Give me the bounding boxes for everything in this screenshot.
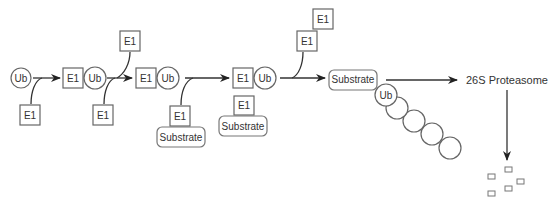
e1-substrate-input: E1 Substrate (157, 106, 205, 147)
e1-substrate-complex: E1 Substrate (219, 96, 267, 136)
ub-label: Ub (380, 90, 393, 101)
e1-ub-complex-1: E1 Ub (63, 67, 106, 89)
e1-ub-complex-2: E1 Ub (136, 67, 179, 89)
ubiquitin-pathway-diagram: Ub E1 E1 Ub E1 E1 E1 Ub E1 Substrate (0, 0, 557, 210)
e1-input-1: E1 (20, 105, 40, 125)
e1-input-2: E1 (93, 105, 113, 125)
e1-label: E1 (301, 36, 314, 47)
ub-label: Ub (162, 73, 175, 84)
e1-output-top-3: E1 (313, 9, 333, 29)
substrate-label: Substrate (222, 121, 265, 132)
substrate-label: Substrate (332, 74, 375, 85)
proteasome-label: 26S Proteasome (466, 74, 548, 86)
e1-label: E1 (174, 111, 187, 122)
ub-free: Ub (11, 68, 31, 88)
ub-label: Ub (15, 73, 28, 84)
e1-label: E1 (237, 73, 250, 84)
e1-label: E1 (317, 14, 330, 25)
ub-chain: Ub (375, 84, 461, 159)
e1-join-curve-1 (31, 78, 42, 104)
e1-release-curve-1 (117, 52, 130, 78)
e1-output-top-1: E1 (120, 31, 140, 51)
e1-output-top-2: E1 (297, 31, 317, 51)
peptide-fragments (488, 167, 524, 196)
e1-ub-complex-3: E1 Ub (233, 67, 276, 89)
ub-label: Ub (89, 73, 102, 84)
e1-label: E1 (140, 73, 153, 84)
substrate-join-curve (181, 78, 193, 105)
e1-release-curve-2 (292, 52, 303, 78)
e1-label: E1 (67, 73, 80, 84)
e1-label: E1 (238, 100, 251, 111)
e1-label: E1 (97, 110, 110, 121)
e1-label: E1 (124, 36, 137, 47)
substrate-label: Substrate (160, 132, 203, 143)
e1-label: E1 (24, 110, 37, 121)
ub-label: Ub (259, 73, 272, 84)
polyubiquitinated-substrate: Substrate (329, 70, 377, 90)
